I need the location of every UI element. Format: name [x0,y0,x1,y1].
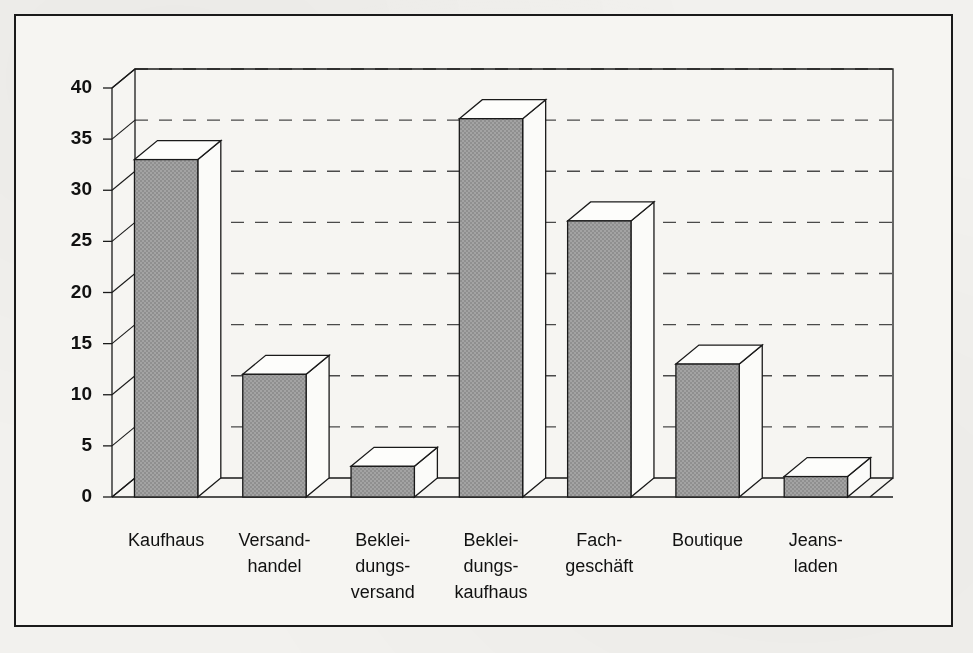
y-axis-tick-label: 30 [71,178,92,199]
x-axis-category-label: Versand-handel [238,530,310,576]
y-axis-tick-label: 0 [81,485,92,506]
bar [243,355,329,497]
x-axis-category-label: Jeans-laden [789,530,843,576]
chart-page: 0510152025303540 KaufhausVersand-handelB… [0,0,973,653]
x-axis-category-label: Beklei-dungs-versand [351,530,415,602]
bar [134,141,220,497]
bars-group [134,100,870,497]
x-axis-labels: KaufhausVersand-handelBeklei-dungs-versa… [128,530,843,602]
x-axis-category-label: Boutique [672,530,743,550]
y-axis-ticks [103,69,135,497]
y-axis-labels: 0510152025303540 [71,76,93,506]
y-axis-tick-label: 10 [71,383,92,404]
x-axis-category-label: Kaufhaus [128,530,204,550]
bar [568,202,654,497]
y-axis-tick-label: 5 [81,434,92,455]
y-axis-tick-label: 25 [71,229,93,250]
bar [784,458,870,497]
y-axis-tick-label: 15 [71,332,93,353]
bar [676,345,762,497]
y-axis-tick-label: 40 [71,76,92,97]
x-axis-category-label: Beklei-dungs-kaufhaus [454,530,527,602]
bar-chart-3d: 0510152025303540 KaufhausVersand-handelB… [0,0,973,653]
x-axis-category-label: Fach-geschäft [565,530,633,576]
bar [351,447,437,497]
y-axis-tick-label: 20 [71,281,92,302]
bar [459,100,545,497]
y-axis-tick-label: 35 [71,127,93,148]
